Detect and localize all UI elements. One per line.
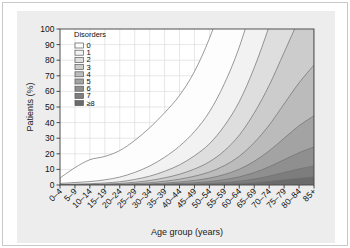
y-tick-label: 70 <box>45 71 55 81</box>
legend-swatch <box>75 86 84 91</box>
figure-root: 0102030405060708090100 0–45–910–1415–192… <box>0 0 350 248</box>
legend-swatch <box>75 79 84 84</box>
y-tick-label: 100 <box>40 24 54 34</box>
legend-swatch <box>75 57 84 62</box>
y-axis-ticks: 0102030405060708090100 <box>40 24 60 190</box>
legend-label: ≥8 <box>87 99 95 108</box>
y-tick-label: 30 <box>45 133 55 143</box>
x-axis-title: Age group (years) <box>151 227 223 237</box>
x-axis-label: Age group (years) <box>151 227 223 237</box>
x-tick-label: 85+ <box>301 186 318 203</box>
y-tick-label: 20 <box>45 149 55 159</box>
legend-swatch <box>75 101 84 106</box>
chart-plate: 0102030405060708090100 0–45–910–1415–192… <box>17 11 335 243</box>
legend-swatch <box>75 93 84 98</box>
y-tick-label: 80 <box>45 55 55 65</box>
legend-swatch <box>75 65 84 70</box>
legend-title: Disorders <box>74 30 106 39</box>
legend-swatch <box>75 50 84 55</box>
y-axis-title: Patients (%) <box>25 82 35 131</box>
figure-frame: 0102030405060708090100 0–45–910–1415–192… <box>2 2 348 246</box>
y-tick-label: 50 <box>45 102 55 112</box>
legend-swatch <box>75 43 84 48</box>
y-tick-label: 40 <box>45 118 55 128</box>
x-axis-ticks: 0–45–910–1415–1920–2425–2930–3435–3940–4… <box>47 185 318 210</box>
legend-swatch <box>75 72 84 77</box>
y-axis-label: Patients (%) <box>25 82 35 131</box>
area-chart: 0102030405060708090100 0–45–910–1415–192… <box>17 11 335 243</box>
y-tick-label: 10 <box>45 164 55 174</box>
y-tick-label: 60 <box>45 86 55 96</box>
y-tick-label: 90 <box>45 40 55 50</box>
